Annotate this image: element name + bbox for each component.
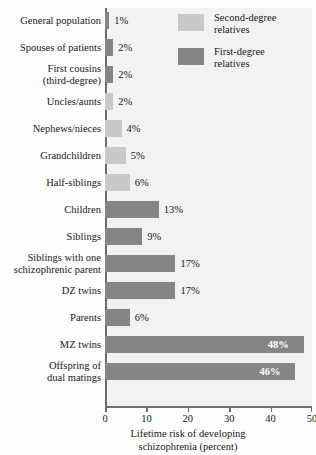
bar-value-label: 13% <box>164 201 183 218</box>
bar <box>105 120 122 137</box>
bar-value-label: 2% <box>118 39 132 56</box>
x-axis-tick-label: 0 <box>102 413 107 425</box>
bar <box>105 201 159 218</box>
category-label: Half-siblings <box>0 177 101 189</box>
category-label: General population <box>0 15 101 27</box>
category-label: Nephews/nieces <box>0 123 101 135</box>
x-axis-tick-label: 10 <box>141 413 152 425</box>
x-axis-tick-label: 40 <box>265 413 276 425</box>
bar-value-label: 6% <box>135 174 149 191</box>
bar-value-label: 9% <box>147 228 161 245</box>
bar-value-label: 17% <box>180 255 199 272</box>
category-label: Spouses of patients <box>0 42 101 54</box>
chart-legend: Second-degree relativesFirst-degree rela… <box>178 12 310 80</box>
bar-row: MZ twins48% <box>0 332 316 359</box>
bar <box>105 282 175 299</box>
x-axis-title: Lifetime risk of developing schizophreni… <box>60 428 316 453</box>
bar-value-label: 2% <box>118 93 132 110</box>
bar-row: Nephews/nieces4% <box>0 116 316 143</box>
bar-row: DZ twins17% <box>0 278 316 305</box>
schizophrenia-risk-chart: General population1%Spouses of patients2… <box>0 0 316 455</box>
bar-row: Parents6% <box>0 305 316 332</box>
bar-row: Siblings9% <box>0 224 316 251</box>
legend-swatch <box>178 14 204 31</box>
category-label: MZ twins <box>0 339 101 351</box>
x-axis-tick <box>271 406 273 412</box>
bar-row: Half-siblings6% <box>0 170 316 197</box>
legend-entry: First-degree relatives <box>178 46 310 80</box>
bar-row: Grandchildren5% <box>0 143 316 170</box>
category-label: Offspring of dual matings <box>0 360 101 383</box>
x-axis-tick <box>146 406 148 412</box>
x-axis-line <box>105 406 312 408</box>
bar <box>105 255 175 272</box>
bar <box>105 309 130 326</box>
category-label: First cousins (third-degree) <box>0 63 101 86</box>
x-axis-tick <box>311 406 313 412</box>
bar <box>105 147 126 164</box>
x-axis-tick <box>229 406 231 412</box>
bar-row: Children13% <box>0 197 316 224</box>
bar-row: Uncles/aunts2% <box>0 89 316 116</box>
legend-label: Second-degree relatives <box>214 12 276 35</box>
category-label: Uncles/aunts <box>0 96 101 108</box>
bar <box>105 228 142 245</box>
x-axis-tick <box>188 406 190 412</box>
x-axis-tick-label: 20 <box>183 413 194 425</box>
legend-swatch <box>178 48 204 65</box>
legend-entry: Second-degree relatives <box>178 12 310 46</box>
bar-value-label: 6% <box>135 309 149 326</box>
x-axis-tick-label: 30 <box>224 413 235 425</box>
x-axis-tick-label: 50 <box>307 413 316 425</box>
legend-label: First-degree relatives <box>214 46 265 69</box>
bar <box>105 93 113 110</box>
category-label: DZ twins <box>0 285 101 297</box>
bar-value-label: 5% <box>131 147 145 164</box>
category-label: Grandchildren <box>0 150 101 162</box>
bar <box>105 174 130 191</box>
x-axis-tick <box>105 406 107 412</box>
category-label: Siblings with one schizophrenic parent <box>0 252 101 275</box>
bar-value-label: 2% <box>118 66 132 83</box>
bar-value-label: 46% <box>259 363 280 380</box>
bar-row: Siblings with one schizophrenic parent17… <box>0 251 316 278</box>
category-label: Parents <box>0 312 101 324</box>
bar <box>105 66 113 83</box>
bar <box>105 12 109 29</box>
bar-value-label: 17% <box>180 282 199 299</box>
bar <box>105 39 113 56</box>
bar-row: Offspring of dual matings46% <box>0 359 316 386</box>
category-label: Siblings <box>0 231 101 243</box>
category-label: Children <box>0 204 101 216</box>
bar-value-label: 48% <box>268 336 289 353</box>
bar-value-label: 4% <box>127 120 141 137</box>
bar-value-label: 1% <box>114 12 128 29</box>
